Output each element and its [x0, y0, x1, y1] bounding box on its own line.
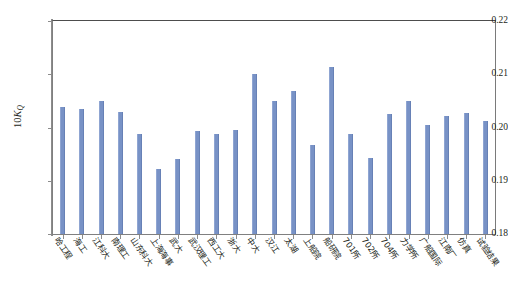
x-tick-label: 中大: [245, 236, 261, 254]
bar: [79, 109, 84, 234]
bar: [195, 131, 200, 234]
bar: [272, 101, 277, 234]
bar: [329, 67, 334, 234]
x-axis-labels: 哈工程海工江科大南理工山东科大上海海事武大武汉理工西工大浙大中大汉江太湖上船院船…: [0, 236, 508, 305]
x-tick-label: 仿真: [456, 236, 472, 254]
bar: [387, 114, 392, 234]
bar: [483, 121, 488, 234]
y-tick-mark: [48, 74, 52, 75]
x-tick-label: 南理工: [110, 236, 131, 260]
bar: [156, 169, 161, 234]
y-tick-mark: [48, 21, 52, 22]
bar: [310, 145, 315, 234]
bar: [118, 112, 123, 234]
x-tick-label: 701所: [341, 236, 362, 260]
x-tick-label: 704所: [379, 236, 400, 260]
bar: [99, 101, 104, 234]
bar-series: [53, 21, 495, 234]
bar: [252, 74, 257, 234]
x-tick-label: 船研院: [322, 236, 343, 260]
x-tick-label: 海工: [72, 236, 88, 254]
bar: [214, 134, 219, 234]
x-tick-label: 哈工程: [53, 236, 74, 260]
x-tick-label: 702所: [360, 236, 381, 260]
bar: [60, 107, 65, 234]
bar: [406, 101, 411, 234]
bar: [425, 125, 430, 234]
y-tick-mark: [48, 234, 52, 235]
x-tick-label: 力学所: [399, 236, 420, 260]
x-tick-label: 武大: [168, 236, 184, 254]
y-axis-label-prefix: 10: [12, 117, 23, 128]
x-tick-label: 浙大: [226, 236, 242, 254]
bar: [137, 134, 142, 234]
bar: [233, 130, 238, 234]
bar-chart: 10KQ 0.220.210.200.190.18 哈工程海工江科大南理工山东科…: [0, 0, 508, 305]
x-tick-label: 太湖: [283, 236, 299, 254]
x-tick-label: 江科大: [91, 236, 112, 260]
x-tick-label: 上船院: [303, 236, 324, 260]
y-tick-mark: [48, 181, 52, 182]
bar: [368, 158, 373, 234]
bar: [291, 91, 296, 234]
bar: [175, 159, 180, 234]
y-axis-label-symbol: K: [12, 110, 23, 117]
y-axis-label: 10KQ: [12, 87, 25, 147]
x-tick-label: 试验结果: [476, 236, 501, 267]
x-tick-label: 汉江: [264, 236, 280, 254]
y-axis-label-subscript: Q: [16, 105, 25, 110]
y-tick-mark: [48, 128, 52, 129]
bar: [444, 116, 449, 234]
bar: [348, 134, 353, 234]
bar: [464, 113, 469, 234]
